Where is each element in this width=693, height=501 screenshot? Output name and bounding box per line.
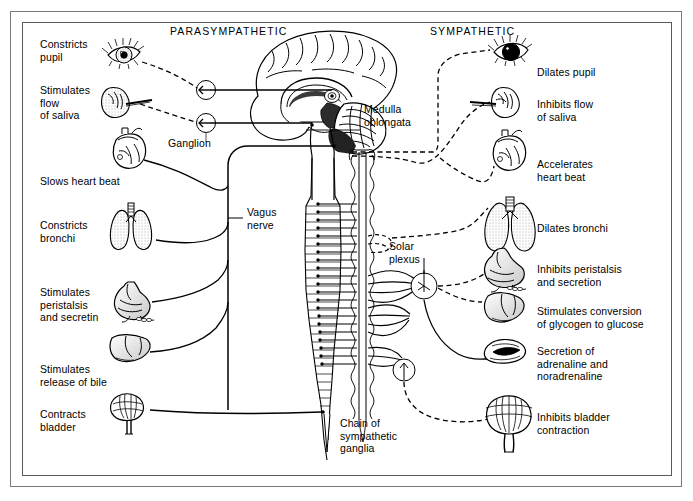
- diagram-canvas: PARASYMPATHETIC SYMPATHETIC Medulla oblo…: [0, 0, 693, 501]
- label-constricts-pupil: Constricts pupil: [40, 38, 88, 63]
- label-slows-heart-beat: Slows heart beat: [40, 175, 120, 188]
- label-inhibits-peristalsis-and-secretion: Inhibits peristalsis and secretion: [537, 263, 622, 288]
- heading-parasympathetic: PARASYMPATHETIC: [170, 25, 287, 37]
- label-ganglion: Ganglion: [168, 137, 211, 150]
- label-vagus-nerve: Vagus nerve: [247, 206, 277, 231]
- label-accelerates-heart-beat: Accelerates heart beat: [537, 158, 593, 183]
- label-dilates-pupil: Dilates pupil: [537, 66, 596, 79]
- label-stimulates-conversion-of-glycogen: Stimulates conversion of glycogen to glu…: [537, 305, 644, 330]
- inner-border: [22, 22, 672, 476]
- label-stimulates-flow-of-saliva: Stimulates flow of saliva: [40, 84, 90, 122]
- label-secretion-of-adrenaline: Secretion of adrenaline and noradrenalin…: [537, 345, 608, 383]
- label-dilates-bronchi: Dilates bronchi: [537, 222, 608, 235]
- label-stimulates-release-of-bile: Stimulates release of bile: [40, 363, 107, 388]
- label-constricts-bronchi: Constricts bronchi: [40, 219, 88, 244]
- label-stimulates-peristalsis-and-secretin: Stimulates peristalsis and secretin: [40, 286, 98, 324]
- label-chain-of-sympathetic-ganglia: Chain of sympathetic ganglia: [340, 417, 397, 455]
- heading-sympathetic: SYMPATHETIC: [430, 25, 515, 37]
- label-solar-plexus: Solar plexus: [389, 240, 420, 265]
- label-inhibits-bladder-contraction: Inhibits bladder contraction: [537, 411, 610, 436]
- label-inhibits-flow-of-saliva: Inhibits flow of saliva: [537, 98, 593, 123]
- label-contracts-bladder: Contracts bladder: [40, 408, 86, 433]
- label-medulla-oblongata: Medulla oblongata: [364, 103, 411, 128]
